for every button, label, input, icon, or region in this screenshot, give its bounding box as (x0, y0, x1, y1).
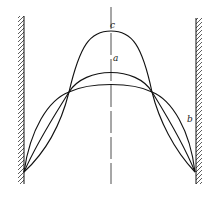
curve-a (24, 73, 195, 173)
curve-b (24, 85, 195, 173)
label-b: b (187, 114, 193, 124)
curve-c (24, 31, 195, 172)
mode-shape-diagram: c a b (0, 0, 215, 197)
label-a: a (113, 53, 118, 63)
left-wall (18, 16, 24, 184)
label-c: c (110, 20, 115, 30)
right-wall (196, 18, 202, 184)
